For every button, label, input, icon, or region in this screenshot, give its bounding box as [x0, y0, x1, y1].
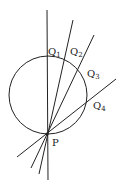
- label-Q4: Q4: [93, 101, 106, 114]
- line-PQ4: [17, 79, 116, 157]
- label-Q2-base: Q: [70, 46, 78, 57]
- label-Q3: Q3: [87, 69, 100, 82]
- label-Q3-base: Q: [87, 68, 95, 79]
- line-PQ3: [31, 35, 94, 168]
- point-P-marker: [45, 132, 48, 135]
- label-Q3-sub: 3: [95, 73, 99, 81]
- label-P-text: P: [52, 137, 59, 148]
- label-Q2: Q2: [70, 47, 83, 60]
- line-PQ1: [47, 10, 48, 180]
- label-Q4-base: Q: [93, 100, 101, 111]
- secant-lines-diagram: [0, 0, 125, 186]
- label-Q1: Q1: [48, 47, 61, 60]
- label-P: P: [52, 138, 59, 148]
- line-PQ2: [39, 20, 73, 174]
- label-Q1-sub: 1: [56, 51, 60, 59]
- label-Q4-sub: 4: [101, 105, 105, 113]
- label-Q1-base: Q: [48, 46, 56, 57]
- label-Q2-sub: 2: [78, 51, 82, 59]
